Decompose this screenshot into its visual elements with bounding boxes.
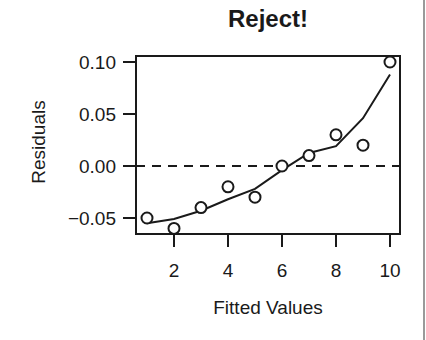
y-tick-label: 0.00 bbox=[79, 156, 116, 177]
y-tick-label: 0.10 bbox=[79, 52, 116, 73]
data-point bbox=[358, 140, 369, 151]
x-axis: 246810 bbox=[169, 234, 401, 281]
data-point bbox=[304, 150, 315, 161]
y-tick-label: −0.05 bbox=[68, 208, 116, 229]
chart-title: Reject! bbox=[228, 5, 308, 32]
panel-divider bbox=[423, 0, 425, 340]
data-point bbox=[331, 129, 342, 140]
x-tick-label: 8 bbox=[331, 260, 342, 281]
data-point bbox=[196, 202, 207, 213]
data-point bbox=[250, 192, 261, 203]
data-point bbox=[223, 181, 234, 192]
x-tick-label: 6 bbox=[277, 260, 288, 281]
residual-points bbox=[142, 57, 396, 234]
x-axis-label: Fitted Values bbox=[213, 297, 322, 318]
data-point bbox=[169, 223, 180, 234]
y-tick-label: 0.05 bbox=[79, 104, 116, 125]
data-point bbox=[277, 161, 288, 172]
y-axis-label: Residuals bbox=[28, 100, 49, 183]
residual-plot: Reject! −0.050.000.050.10 246810 Residua… bbox=[0, 0, 426, 340]
y-axis: −0.050.000.050.10 bbox=[68, 52, 136, 229]
x-tick-label: 4 bbox=[223, 260, 234, 281]
data-point bbox=[385, 57, 396, 68]
x-tick-label: 2 bbox=[169, 260, 180, 281]
x-tick-label: 10 bbox=[379, 260, 400, 281]
data-point bbox=[142, 213, 153, 224]
smoother-line bbox=[147, 75, 390, 224]
